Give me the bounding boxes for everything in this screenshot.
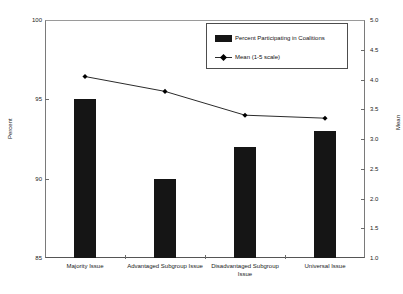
y-axis-left-tick-label: 95 <box>35 96 42 102</box>
legend-label-line: Mean (1-5 scale) <box>235 54 280 61</box>
legend-entry-bar: Percent Participating in Coalitions <box>215 33 325 43</box>
x-axis-tickmark <box>285 255 286 259</box>
y-axis-right-tick-label: 3.5 <box>370 106 378 112</box>
y-axis-right-tick-label: 1.5 <box>370 225 378 231</box>
y-axis-right-tickmark <box>361 80 365 81</box>
y-axis-left-tick-label: 90 <box>35 176 42 182</box>
legend-bar-swatch-icon <box>215 35 232 42</box>
x-axis-tickmark <box>125 255 126 259</box>
y-axis-right-tickmark <box>361 109 365 110</box>
x-axis-category-label: Disadvantaged Subgroup Issue <box>205 262 285 290</box>
y-axis-right-tickmark <box>361 199 365 200</box>
legend-entry-line: Mean (1-5 scale) <box>215 52 280 62</box>
y-axis-right-ticks: 1.01.52.02.53.03.54.04.55.0 <box>370 0 403 294</box>
chart-legend: Percent Participating in Coalitions Mean… <box>206 23 348 69</box>
y-axis-left-tickmark <box>45 179 49 180</box>
y-axis-left-ticks: 859095100 <box>0 0 42 294</box>
y-axis-right-tickmark <box>361 169 365 170</box>
y-axis-right-tickmark <box>361 50 365 51</box>
y-axis-left-tickmark <box>45 99 49 100</box>
x-axis-category-label: Universal Issue <box>285 262 365 290</box>
bar <box>154 179 176 258</box>
y-axis-right-tickmark <box>361 139 365 140</box>
legend-line-swatch-icon <box>215 54 232 61</box>
y-axis-right-tick-label: 1.0 <box>370 255 378 261</box>
legend-label-bar: Percent Participating in Coalitions <box>235 35 325 42</box>
y-axis-left-tick-label: 85 <box>35 255 42 261</box>
y-axis-right-tick-label: 3.0 <box>370 136 378 142</box>
y-axis-right-tick-label: 4.5 <box>370 47 378 53</box>
y-axis-right-tick-label: 5.0 <box>370 17 378 23</box>
x-axis-labels: Majority IssueAdvantaged Subgroup IssueD… <box>45 262 365 290</box>
x-axis-category-label: Majority Issue <box>45 262 125 290</box>
bar <box>314 131 336 258</box>
y-axis-right-tick-label: 2.5 <box>370 166 378 172</box>
y-axis-right-tick-label: 2.0 <box>370 196 378 202</box>
chart-figure: 859095100 1.01.52.02.53.03.54.04.55.0 Pe… <box>0 0 403 294</box>
x-axis-category-label: Advantaged Subgroup Issue <box>125 262 205 290</box>
y-axis-right-title: Mean <box>395 115 401 130</box>
y-axis-left-tick-label: 100 <box>32 17 42 23</box>
y-axis-right-tick-label: 4.0 <box>370 77 378 83</box>
x-axis-tickmark <box>205 255 206 259</box>
y-axis-right-tickmark <box>361 228 365 229</box>
bar <box>234 147 256 258</box>
bar <box>74 99 96 258</box>
y-axis-left-title: Percent <box>7 118 13 139</box>
